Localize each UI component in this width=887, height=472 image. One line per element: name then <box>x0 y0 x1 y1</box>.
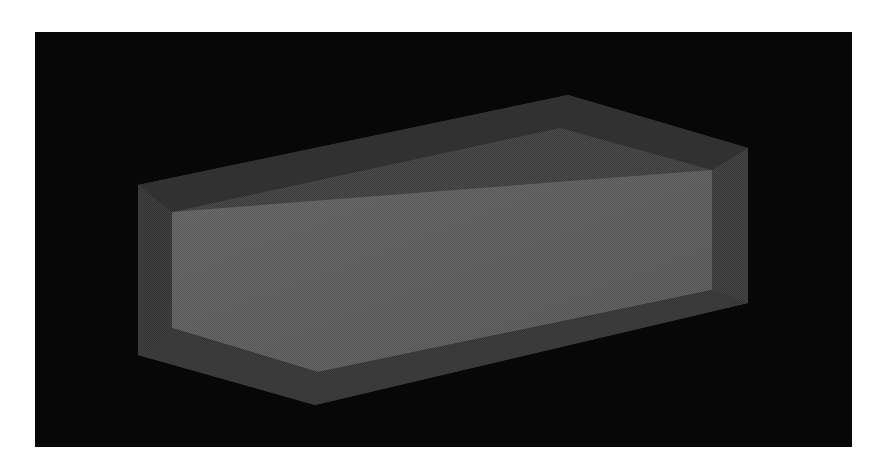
box-render <box>0 0 887 472</box>
dither-overlay <box>138 95 748 405</box>
